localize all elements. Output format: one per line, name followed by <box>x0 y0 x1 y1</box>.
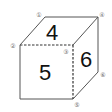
face-front-number: 5 <box>39 60 51 85</box>
edge-top-right <box>73 17 98 45</box>
corner-label-5: ⑤ <box>74 101 79 108</box>
corner-label-2: ② <box>10 42 15 49</box>
corner-label-1: ① <box>36 11 41 18</box>
corner-label-4: ④ <box>99 11 104 18</box>
edge-top-left <box>20 17 45 45</box>
cube-diagram: 4 5 6 ① ② ③ ④ ⑤ ⑥ <box>0 0 112 112</box>
face-top-number: 4 <box>46 20 58 45</box>
edge-right-bottom <box>73 72 98 99</box>
face-right-number: 6 <box>80 47 92 72</box>
corner-label-6: ⑥ <box>100 71 105 78</box>
corner-label-3: ③ <box>63 48 68 55</box>
